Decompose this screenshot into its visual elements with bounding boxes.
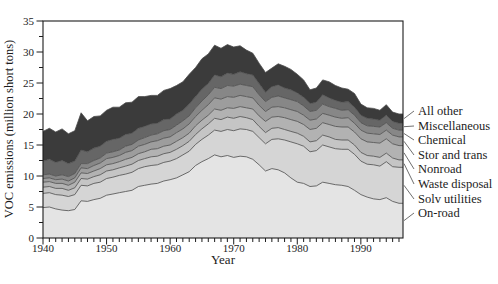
y-tick-label-30: 30 <box>23 46 35 58</box>
y-tick-label-35: 35 <box>23 15 35 27</box>
legend-label-nonroad: Nonroad <box>418 162 462 176</box>
leader-line-miscellaneous <box>404 126 414 127</box>
y-tick-label-15: 15 <box>23 139 35 151</box>
stacked-areas <box>43 45 403 238</box>
voc-emissions-figure: 05101520253035194019501960197019801990 A… <box>0 0 498 284</box>
leader-line-stor-and-trans <box>404 141 414 155</box>
y-tick-label-10: 10 <box>23 170 35 182</box>
legend-label-stor-and-trans: Stor and trans <box>418 148 488 162</box>
x-tick-label-1940: 1940 <box>32 242 55 254</box>
x-tick-label-1950: 1950 <box>96 242 119 254</box>
leader-line-on-road <box>404 213 414 221</box>
x-tick-label-1990: 1990 <box>350 242 373 254</box>
legend-label-solv-utilities: Solv utilities <box>418 192 482 206</box>
legend-label-miscellaneous: Miscellaneous <box>418 119 490 133</box>
voc-stacked-area-chart: 05101520253035194019501960197019801990 A… <box>0 0 498 284</box>
legend-label-waste-disposal: Waste disposal <box>418 177 493 191</box>
legend: All otherMiscellaneousChemicalStor and t… <box>404 104 493 221</box>
legend-label-on-road: On-road <box>418 206 460 220</box>
y-tick-label-20: 20 <box>23 108 35 120</box>
leader-line-all-other <box>404 111 414 119</box>
y-tick-label-5: 5 <box>29 201 35 213</box>
x-tick-label-1980: 1980 <box>286 242 309 254</box>
y-axis-title: VOC emissions (million short tons) <box>2 40 16 218</box>
leader-line-solv-utilities <box>404 185 414 199</box>
leader-line-chemical <box>404 134 414 141</box>
x-axis-title: Year <box>211 252 236 267</box>
y-tick-label-25: 25 <box>23 77 35 89</box>
legend-label-all-other: All other <box>418 104 464 118</box>
legend-label-chemical: Chemical <box>418 133 466 147</box>
x-tick-label-1960: 1960 <box>159 242 182 254</box>
